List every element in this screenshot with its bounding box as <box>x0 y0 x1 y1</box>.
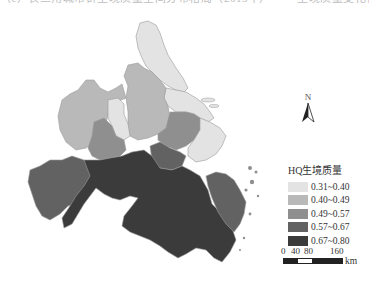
scale-bar: 0 40 80 160 km <box>281 246 369 270</box>
island <box>244 188 247 191</box>
legend-label: 0.49~0.57 <box>311 209 349 219</box>
legend-item: 0.31~0.40 <box>288 181 349 193</box>
estuary-island-2 <box>209 104 219 107</box>
scale-ticks: 0 40 80 160 <box>281 246 369 256</box>
legend-item: 0.40~0.49 <box>288 195 349 207</box>
estuary-island-1 <box>201 98 215 102</box>
legend-title: HQ生境质量 <box>288 162 349 177</box>
region-south-dark <box>62 150 236 262</box>
legend-swatch <box>288 209 308 219</box>
island <box>250 180 254 184</box>
legend-item: 0.49~0.57 <box>288 208 349 220</box>
legend-swatch <box>288 222 308 232</box>
north-arrow: N <box>298 93 318 128</box>
legend-label: 0.67~0.80 <box>311 236 349 246</box>
legend-swatch <box>288 236 308 246</box>
legend-label: 0.40~0.49 <box>311 195 349 205</box>
island <box>257 195 259 197</box>
legend-label: 0.31~0.40 <box>311 182 349 192</box>
scale-tick: 160 <box>330 246 344 256</box>
north-label: N <box>298 93 318 102</box>
legend-item: 0.67~0.80 <box>288 235 349 247</box>
legend-swatch <box>288 195 308 205</box>
scale-tick: 0 <box>281 246 286 256</box>
island <box>239 249 241 251</box>
legend: HQ生境质量 0.31~0.40 0.40~0.49 0.49~0.57 0.5… <box>288 162 349 249</box>
island <box>248 166 252 170</box>
scale-tick: 80 <box>304 246 313 256</box>
island <box>243 237 245 239</box>
scale-unit: km <box>345 256 357 266</box>
legend-swatch <box>288 182 308 192</box>
scale-bar-graphic <box>283 258 343 264</box>
north-arrow-icon <box>301 102 315 124</box>
legend-label: 0.57~0.67 <box>311 222 349 232</box>
legend-item: 0.57~0.67 <box>288 222 349 234</box>
island <box>249 213 252 216</box>
scale-tick: 40 <box>291 246 300 256</box>
island <box>255 171 258 174</box>
